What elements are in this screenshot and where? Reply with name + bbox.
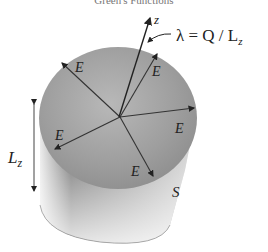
surface-label: S (172, 184, 180, 200)
z-axis-label: z (153, 12, 159, 27)
equation-pointer (148, 34, 171, 42)
field-label-e-1: E (74, 60, 84, 75)
field-label-e-3: E (174, 121, 184, 136)
length-label: Lz (7, 148, 22, 170)
gaussian-cylinder-figure: z λ = Q / Lz E E E E E Lz S (0, 0, 268, 252)
field-label-e-5: E (54, 128, 64, 143)
field-label-e-4: E (130, 164, 140, 179)
charge-density-equation: λ = Q / Lz (176, 26, 243, 47)
field-label-e-2: E (151, 64, 161, 79)
